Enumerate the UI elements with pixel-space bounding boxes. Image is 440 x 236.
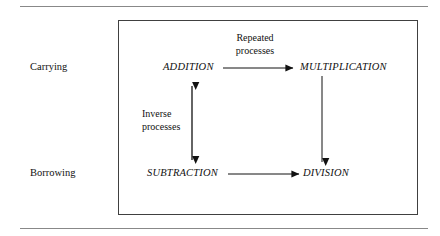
node-division: DIVISION xyxy=(303,167,349,178)
node-addition: ADDITION xyxy=(163,61,214,72)
figure-canvas: Carrying Borrowing ADDITION MULTIPLICATI… xyxy=(0,0,440,236)
node-multiplication: MULTIPLICATION xyxy=(300,61,387,72)
edge-label-repeated-line2: processes xyxy=(224,44,286,57)
row-label-carrying: Carrying xyxy=(30,61,67,72)
node-subtraction: SUBTRACTION xyxy=(147,167,218,178)
edge-label-repeated-processes: Repeated processes xyxy=(224,31,286,57)
edge-label-inverse-line2: processes xyxy=(142,120,190,133)
top-horizontal-rule xyxy=(20,6,428,7)
edge-label-inverse-line1: Inverse xyxy=(142,107,190,120)
edge-label-repeated-line1: Repeated xyxy=(224,31,286,44)
bottom-horizontal-rule xyxy=(20,228,428,229)
edge-label-inverse-processes: Inverse processes xyxy=(142,107,190,133)
row-label-borrowing: Borrowing xyxy=(30,167,76,178)
